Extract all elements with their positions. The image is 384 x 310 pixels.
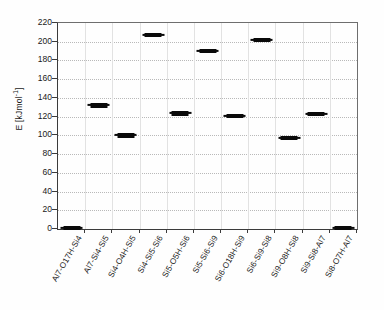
x-axis-tick-label: Al7-Si4-Si5 (82, 234, 111, 275)
data-marker (335, 226, 352, 230)
data-marker (281, 136, 298, 140)
category-separator-line (85, 23, 86, 229)
category-separator-line (330, 23, 331, 229)
gridline (58, 117, 357, 118)
energy-scatter-chart: E [kJmol-1] 0204060801001201401601802002… (0, 0, 384, 310)
data-marker (145, 33, 162, 37)
category-separator-line (167, 23, 168, 229)
gridline (58, 98, 357, 99)
category-separator-line (140, 23, 141, 229)
x-axis-tick-label: Si6-Si9-Si8 (245, 234, 274, 275)
data-marker (308, 112, 325, 116)
category-separator-line (221, 23, 222, 229)
data-marker (63, 226, 80, 230)
y-axis-tick-label: 180 (12, 54, 52, 64)
gridline (58, 210, 357, 211)
y-axis-title-tail: ] (14, 87, 24, 90)
y-axis-tick-label: 80 (12, 148, 52, 158)
y-axis-tick-label: 60 (12, 167, 52, 177)
x-axis-tick-label: Si9-Si8-Al7 (299, 234, 328, 275)
data-marker (199, 49, 216, 53)
data-marker (226, 114, 243, 118)
data-marker (172, 111, 189, 115)
y-axis-tick-label: 20 (12, 204, 52, 214)
category-separator-line (112, 23, 113, 229)
gridline (58, 42, 357, 43)
y-axis-tick-label: 140 (12, 92, 52, 102)
x-axis-tick-label: Si4-O4H-Si5 (106, 234, 137, 279)
y-axis-tick-label: 220 (12, 17, 52, 27)
category-separator-line (248, 23, 249, 229)
x-axis-tick-label: Si9-O8H-Si8 (270, 234, 301, 279)
category-separator-line (303, 23, 304, 229)
y-axis-tick-label: 0 (12, 223, 52, 233)
category-separator-line (194, 23, 195, 229)
y-axis-tick-label: 40 (12, 186, 52, 196)
gridline (58, 60, 357, 61)
gridline (58, 154, 357, 155)
gridline (58, 192, 357, 193)
x-axis-tick-label: Al7-O17H-Si4 (50, 234, 84, 283)
data-marker (117, 133, 134, 137)
y-axis-tick-label: 100 (12, 129, 52, 139)
x-axis-tick-label: Si5-O5H-Si6 (161, 234, 192, 279)
data-marker (90, 103, 107, 107)
x-axis-tick-label: Si4-Si5-Si6 (136, 234, 165, 275)
data-marker (253, 38, 270, 42)
gridline (58, 173, 357, 174)
plot-area (57, 22, 358, 230)
category-separator-line (275, 23, 276, 229)
y-axis-tick-label: 200 (12, 36, 52, 46)
y-axis-tick-label: 120 (12, 111, 52, 121)
x-axis-tick-label: Si5-Si6-Si9 (190, 234, 219, 275)
y-axis-tick-label: 160 (12, 73, 52, 83)
x-axis-tick-label: Si8-O7H-Al7 (324, 234, 355, 279)
gridline (58, 79, 357, 80)
gridline (58, 135, 357, 136)
